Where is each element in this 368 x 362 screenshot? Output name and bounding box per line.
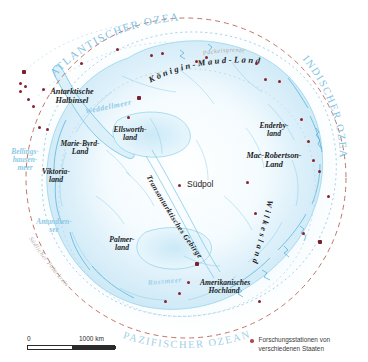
legend: Forschungsstationen von verschiedenen St… xyxy=(250,336,330,353)
queen-maud-land-label: Königin-Maud-Land xyxy=(146,55,263,85)
ross-sea-label: Rossmeer xyxy=(146,275,182,287)
scale-bar-graphic xyxy=(27,345,115,350)
station-legend-icon xyxy=(250,339,254,343)
indian-ocean-label: INDISCHER OZEAN xyxy=(0,0,349,159)
pacific-ocean-label: PAZIFISCHER OZEAN xyxy=(122,328,252,350)
legend-entry-label: Forschungsstationen von verschiedenen St… xyxy=(259,336,330,353)
scale-bar: 0 1000 km xyxy=(27,335,115,350)
antarctica-map: ATLANTISCHER OZEAN INDISCHER OZEAN PAZIF… xyxy=(0,0,368,362)
scale-max-label: 1000 km xyxy=(79,335,104,342)
wilkes-land-label: Wilkesland xyxy=(249,199,274,267)
scale-zero-label: 0 xyxy=(27,335,31,342)
ocean-label-layer: ATLANTISCHER OZEAN INDISCHER OZEAN PAZIF… xyxy=(0,0,368,362)
transantarctic-mts-label: Transantarktisches Gebirge xyxy=(145,174,205,261)
atlantic-ocean-label: ATLANTISCHER OZEAN xyxy=(0,0,180,79)
weddell-sea-label: Weddellmeer xyxy=(85,97,133,116)
antarctic-circle-label: Südlicher Polarkreis xyxy=(28,235,71,287)
